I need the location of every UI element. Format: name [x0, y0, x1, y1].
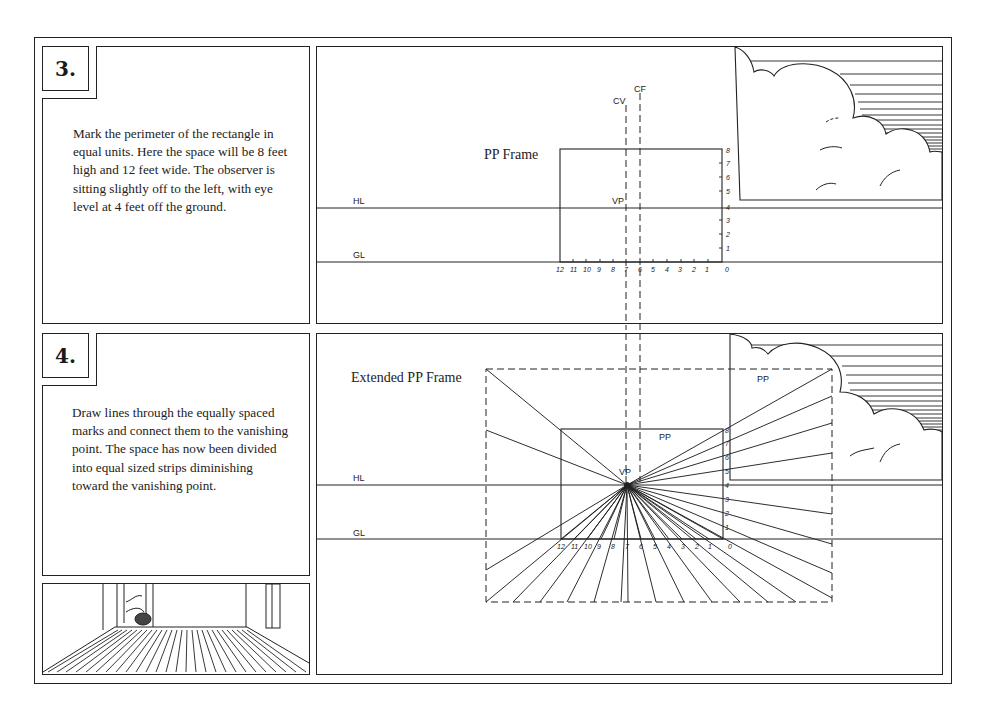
svg-text:2: 2 [694, 543, 699, 550]
svg-text:6: 6 [639, 543, 643, 550]
svg-text:2: 2 [725, 231, 730, 238]
cloud-icon [735, 47, 942, 200]
step-3-diagram [735, 47, 942, 200]
svg-text:3: 3 [678, 266, 682, 273]
svg-text:7: 7 [624, 266, 629, 273]
extended-pp-frame-label: Extended PP Frame [351, 370, 462, 385]
svg-text:4: 4 [665, 266, 669, 273]
svg-text:5: 5 [653, 543, 657, 550]
side-tick-labels: 8 7 6 5 4 3 2 1 [724, 427, 730, 531]
svg-text:1: 1 [725, 524, 729, 531]
svg-text:11: 11 [571, 543, 578, 550]
svg-text:10: 10 [583, 266, 591, 273]
svg-text:12: 12 [556, 266, 564, 273]
svg-text:0: 0 [728, 543, 732, 550]
pp-frame [560, 149, 722, 262]
svg-text:11: 11 [570, 266, 577, 273]
svg-text:12: 12 [557, 543, 565, 550]
svg-text:2: 2 [691, 266, 696, 273]
svg-text:6: 6 [638, 266, 642, 273]
cf-label: CF [634, 84, 646, 94]
svg-text:3: 3 [726, 217, 730, 224]
svg-text:1: 1 [708, 543, 712, 550]
svg-text:10: 10 [584, 543, 592, 550]
svg-text:4: 4 [667, 543, 671, 550]
bottom-tick-labels: 12 11 10 9 8 7 6 5 4 3 2 1 0 [556, 266, 729, 273]
svg-text:0: 0 [725, 266, 729, 273]
svg-text:8: 8 [611, 266, 615, 273]
hl-label: HL [353, 196, 365, 206]
pp-outer-label: PP [757, 374, 769, 384]
step-3-labels: PP Frame HL GL CV CF VP 12 11 10 9 8 7 6… [353, 84, 731, 273]
pp-frame [561, 429, 723, 539]
pp-inner-label: PP [659, 432, 671, 442]
room-illustration-icon [43, 584, 309, 672]
diagrams-layer: PP Frame HL GL CV CF VP 12 11 10 9 8 7 6… [0, 0, 989, 716]
vp-label: VP [612, 196, 624, 206]
vp-label: VP [619, 467, 631, 477]
svg-text:9: 9 [597, 266, 601, 273]
pp-frame-label: PP Frame [484, 147, 538, 162]
svg-text:3: 3 [681, 543, 685, 550]
svg-text:7: 7 [726, 160, 731, 167]
bottom-tick-labels: 12 11 10 9 8 7 6 5 4 3 2 1 0 [557, 543, 732, 550]
svg-text:7: 7 [625, 543, 630, 550]
side-tick-labels: 8 7 6 5 4 3 2 1 [725, 147, 731, 252]
svg-text:2: 2 [724, 510, 729, 517]
svg-text:1: 1 [726, 245, 730, 252]
svg-text:4: 4 [725, 482, 729, 489]
cv-label: CV [613, 96, 626, 106]
svg-text:9: 9 [597, 543, 601, 550]
svg-text:6: 6 [725, 454, 729, 461]
svg-text:5: 5 [651, 266, 655, 273]
svg-text:8: 8 [611, 543, 615, 550]
gl-label: GL [353, 528, 365, 538]
hl-label: HL [353, 473, 365, 483]
svg-text:8: 8 [726, 147, 730, 154]
svg-text:1: 1 [705, 266, 709, 273]
svg-text:3: 3 [725, 496, 729, 503]
gl-label: GL [353, 250, 365, 260]
step-4-diagram [730, 334, 942, 480]
step-4-labels: Extended PP Frame HL GL VP PP PP 12 11 1… [351, 370, 769, 550]
svg-text:4: 4 [726, 204, 730, 211]
vanishing-point-icon [624, 482, 630, 488]
svg-text:5: 5 [725, 468, 729, 475]
svg-text:5: 5 [726, 188, 730, 195]
svg-text:6: 6 [726, 174, 730, 181]
svg-text:8: 8 [725, 427, 729, 434]
